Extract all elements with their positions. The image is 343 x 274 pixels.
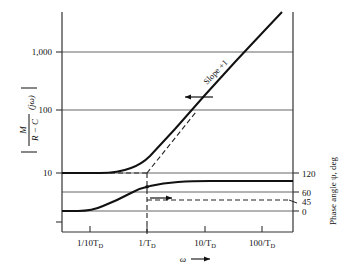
bottom-tick-1-sub: D — [151, 242, 156, 249]
right-tick-label-45: 45 — [302, 197, 312, 207]
figure-background — [0, 0, 343, 274]
left-tick-label-10: 10 — [43, 168, 53, 178]
bottom-tick-1-main: 1/T — [138, 238, 151, 248]
bottom-tick-0-sub: D — [98, 242, 103, 249]
left-axis-numerator: M — [18, 126, 28, 135]
bode-plot-figure: Slope +1 1,000 100 10 120 60 45 0 Phase … — [0, 0, 343, 274]
bottom-tick-2-main: 10/T — [194, 238, 212, 248]
breakpoint-marker — [145, 185, 149, 189]
right-tick-label-120: 120 — [302, 169, 316, 179]
left-axis-denominator: R − C — [30, 118, 40, 142]
bottom-tick-0-main: 1/10T — [77, 238, 99, 248]
left-axis-argument: (jω) — [26, 95, 36, 110]
left-tick-label-1000: 1,000 — [32, 47, 53, 57]
x-axis-title: ω — [180, 254, 186, 264]
bottom-tick-2-sub: D — [211, 242, 216, 249]
right-tick-label-0: 0 — [302, 207, 307, 217]
plot-canvas: Slope +1 1,000 100 10 120 60 45 0 Phase … — [0, 0, 343, 274]
bottom-tick-3-sub: D — [270, 242, 275, 249]
right-axis-title: Phase angle ψ, deg — [328, 156, 338, 225]
bottom-tick-3-main: 100/T — [249, 238, 271, 248]
left-tick-label-100: 100 — [39, 105, 53, 115]
